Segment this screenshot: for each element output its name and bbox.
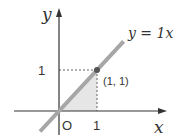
x-tick-label-1: 1 <box>93 118 100 133</box>
y-tick-label-1: 1 <box>38 63 45 78</box>
point-label: (1, 1) <box>103 75 129 87</box>
series-equation-label: y = 1x <box>127 25 173 41</box>
origin-label: O <box>62 118 72 133</box>
point-1-1 <box>94 67 100 73</box>
x-axis-label: x <box>154 117 164 137</box>
y-axis-arrowhead <box>56 8 62 17</box>
x-axis-arrowhead <box>158 108 167 114</box>
coordinate-plot: y x O 1 1 (1, 1) y = 1x <box>0 0 181 139</box>
y-axis-label: y <box>41 4 52 24</box>
